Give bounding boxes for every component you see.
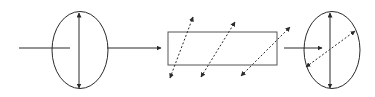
dashed-polarization-arrow-2 xyxy=(201,22,235,77)
input-polarizer xyxy=(52,12,108,89)
plate-rectangle xyxy=(168,32,277,65)
input-ellipse xyxy=(52,12,108,89)
polarization-diagram xyxy=(0,0,375,97)
dashed-polarization-arrow-1 xyxy=(170,17,193,78)
output-polarizer xyxy=(304,12,360,89)
dashed-polarization-arrow-3 xyxy=(241,27,290,76)
output-ellipse xyxy=(304,12,360,89)
birefringent-plate xyxy=(168,17,290,78)
